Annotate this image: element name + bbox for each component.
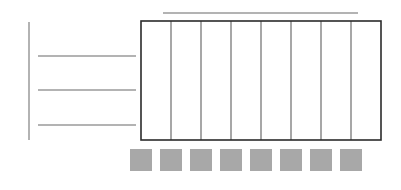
gray-square-5 xyxy=(250,149,272,171)
diagram-canvas xyxy=(0,0,401,190)
gray-square-7 xyxy=(310,149,332,171)
gray-square-2 xyxy=(160,149,182,171)
square-row xyxy=(130,149,362,171)
gray-square-1 xyxy=(130,149,152,171)
left-bracket xyxy=(29,22,136,140)
grid-box xyxy=(141,21,381,140)
gray-square-4 xyxy=(220,149,242,171)
gray-square-3 xyxy=(190,149,212,171)
gray-square-6 xyxy=(280,149,302,171)
gray-square-8 xyxy=(340,149,362,171)
